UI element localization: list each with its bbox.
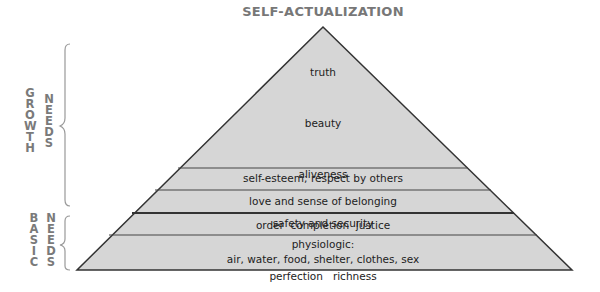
growth-label: GROWTH [24,88,36,154]
level-physiologic-items: air, water, food, shelter, clothes, sex [163,251,483,268]
growth-brace-icon [60,44,70,206]
level-love: love and sense of belonging [163,193,483,210]
level-esteem: self-esteem; respect by others [163,170,483,187]
needs-label-basic: NEEDS [45,213,57,268]
basic-label: BASIC [28,213,40,268]
level-safety: safety and security [163,215,483,232]
basic-brace-icon [60,216,70,270]
needs-label-growth: NEEDS [43,94,55,149]
